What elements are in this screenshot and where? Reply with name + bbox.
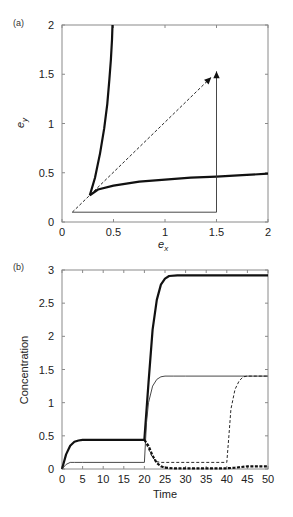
data-series-line (62, 275, 268, 469)
series-a (72, 25, 268, 212)
panel-label-a: (a) (13, 18, 24, 28)
y-tick-label: 0 (48, 216, 54, 228)
x-tick-label: 30 (179, 473, 191, 485)
x-tick-label: 25 (159, 473, 171, 485)
x-tick-label: 0 (59, 473, 65, 485)
x-tick-label: 20 (138, 473, 150, 485)
x-tick-label: 45 (241, 473, 253, 485)
x-tick-label: 50 (262, 473, 274, 485)
series-b (62, 275, 268, 469)
x-tick-label: 0 (59, 226, 65, 238)
y-tick-label: 1.5 (39, 68, 54, 80)
y-tick-label: 2 (48, 330, 54, 342)
data-series-line (90, 174, 268, 196)
data-series-line (90, 25, 113, 195)
y-tick-label: 0.5 (39, 430, 54, 442)
y-tick-label: 1 (48, 397, 54, 409)
x-tick-label: 5 (80, 473, 86, 485)
x-axis-label-a: ex (158, 238, 169, 253)
x-tick-label: 40 (221, 473, 233, 485)
y-tick-label: 2 (48, 19, 54, 31)
y-axis-label-b: Concentration (18, 336, 30, 405)
y-tick-label: 1.5 (39, 364, 54, 376)
x-tick-label: 1 (162, 226, 168, 238)
x-tick-label: 10 (97, 473, 109, 485)
data-series-line (62, 376, 268, 469)
data-series-line (144, 440, 268, 469)
y-tick-label: 1 (48, 118, 54, 130)
arrowhead-icon (213, 71, 219, 78)
data-series-line (144, 376, 268, 462)
x-tick-label: 0.5 (106, 226, 121, 238)
chart-a: (a) 00.511.5200.511.52 ex ey (13, 18, 271, 253)
x-tick-label: 35 (200, 473, 212, 485)
y-tick-label: 3 (48, 264, 54, 276)
x-tick-label: 15 (118, 473, 130, 485)
x-tick-label: 2 (265, 226, 271, 238)
x-tick-label: 1.5 (209, 226, 224, 238)
axis-ticks-a: 00.511.5200.511.52 (39, 19, 271, 238)
y-axis-label-a: ey (14, 117, 29, 128)
panel-label-b: (b) (13, 262, 24, 272)
y-tick-label: 0.5 (39, 167, 54, 179)
chart-b: (b) 0510152025303540455000.511.522.53 Ti… (13, 262, 274, 500)
y-tick-label: 0 (48, 463, 54, 475)
y-tick-label: 2.5 (39, 297, 54, 309)
figure: (a) 00.511.5200.511.52 ex ey (b) 0510152… (0, 0, 293, 517)
x-axis-label-b: Time (153, 488, 177, 500)
